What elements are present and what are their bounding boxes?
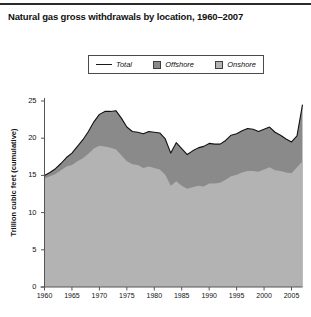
y-tick-label: 15	[17, 170, 37, 179]
area-chart-svg	[0, 0, 311, 317]
y-tick-label: 20	[17, 133, 37, 142]
x-tick-label: 1985	[169, 292, 195, 299]
x-tick-label: 1970	[86, 292, 112, 299]
y-tick-label: 10	[17, 208, 37, 217]
y-tick-label: 0	[17, 282, 37, 291]
x-tick-label: 1965	[59, 292, 85, 299]
x-tick-label: 2005	[279, 292, 305, 299]
y-tick-label: 25	[17, 96, 37, 105]
x-tick-label: 1990	[196, 292, 222, 299]
x-tick-label: 1975	[114, 292, 140, 299]
x-tick-label: 2000	[251, 292, 277, 299]
y-axis-title: Trillion cubic feet (cumulative)	[9, 108, 18, 258]
plot-area: Trillion cubic feet (cumulative) 0510152…	[0, 0, 311, 317]
x-tick-label: 1980	[141, 292, 167, 299]
y-tick-label: 5	[17, 245, 37, 254]
x-tick-label: 1995	[224, 292, 250, 299]
x-tick-label: 1960	[32, 292, 58, 299]
